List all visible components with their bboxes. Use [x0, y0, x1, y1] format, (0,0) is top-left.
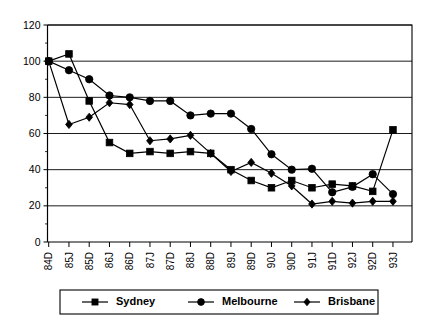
data-point-sydney-91J	[309, 184, 316, 191]
legend-marker-square-icon	[92, 299, 98, 305]
data-point-sydney-87D	[167, 150, 174, 157]
data-point-melbourne-88J	[187, 112, 194, 119]
x-tick-label-91D: 91D	[327, 252, 338, 270]
x-tick-label-85D: 85D	[84, 252, 95, 270]
data-point-melbourne-85J	[65, 67, 72, 74]
x-tick-label-90D: 90D	[286, 252, 297, 270]
data-point-sydney-86D	[126, 150, 133, 157]
data-point-melbourne-90D	[288, 166, 295, 173]
x-tick-label-87D: 87D	[165, 252, 176, 270]
x-tick-label-86J: 86J	[104, 252, 115, 268]
x-tick-label-90J: 90J	[266, 252, 277, 268]
data-point-sydney-85D	[86, 98, 93, 105]
x-tick-label-92D: 92D	[367, 252, 378, 270]
chart-background	[0, 0, 435, 329]
data-point-melbourne-85D	[86, 76, 93, 83]
data-point-melbourne-88D	[207, 110, 214, 117]
data-point-sydney-86J	[106, 139, 113, 146]
data-point-melbourne-90J	[268, 151, 275, 158]
data-point-melbourne-87D	[167, 97, 174, 104]
legend-label-brisbane: Brisbane	[328, 295, 375, 307]
y-tick-label-40: 40	[29, 163, 41, 175]
y-tick-label-20: 20	[29, 199, 41, 211]
y-tick-label-100: 100	[23, 55, 41, 67]
data-point-melbourne-92D	[369, 170, 376, 177]
data-point-sydney-89D	[248, 177, 255, 184]
x-tick-label-89J: 89J	[226, 252, 237, 268]
data-point-sydney-85J	[66, 51, 73, 58]
y-tick-label-60: 60	[29, 127, 41, 139]
data-point-sydney-87J	[147, 148, 154, 155]
x-tick-label-88D: 88D	[205, 252, 216, 270]
chart-container: 020406080100120 84D85J85D86J86D87J87D88J…	[0, 0, 435, 329]
data-point-sydney-91D	[329, 181, 336, 188]
legend-marker-circle-icon	[198, 299, 205, 306]
data-point-sydney-88J	[187, 148, 194, 155]
line-chart: 020406080100120 84D85J85D86J86D87J87D88J…	[0, 0, 435, 329]
x-tick-label-93J: 93J	[388, 252, 399, 268]
legend-label-melbourne: Melbourne	[222, 295, 278, 307]
data-point-melbourne-92J	[349, 183, 356, 190]
x-tick-label-92J: 92J	[347, 252, 358, 268]
data-point-melbourne-87J	[146, 97, 153, 104]
data-point-sydney-93J	[390, 127, 397, 134]
x-tick-label-87J: 87J	[145, 252, 156, 268]
y-tick-label-0: 0	[35, 236, 41, 248]
data-point-melbourne-89D	[248, 125, 255, 132]
data-point-melbourne-91D	[329, 189, 336, 196]
legend-label-sydney: Sydney	[116, 295, 156, 307]
data-point-melbourne-89J	[227, 110, 234, 117]
x-tick-label-88J: 88J	[185, 252, 196, 268]
x-tick-label-84D: 84D	[43, 252, 54, 270]
x-tick-label-86D: 86D	[124, 252, 135, 270]
x-tick-label-89D: 89D	[246, 252, 257, 270]
y-tick-label-80: 80	[29, 91, 41, 103]
data-point-sydney-90J	[268, 184, 275, 191]
x-tick-label-85J: 85J	[64, 252, 75, 268]
data-point-melbourne-91J	[308, 165, 315, 172]
y-tick-label-120: 120	[23, 19, 41, 31]
x-tick-label-91J: 91J	[307, 252, 318, 268]
data-point-sydney-92D	[369, 188, 376, 195]
